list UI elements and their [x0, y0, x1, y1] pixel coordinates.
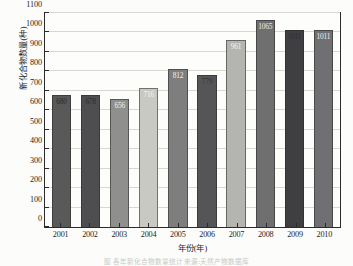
bar-value-label: 1065 [257, 22, 274, 31]
bar-slot: 716 [136, 13, 162, 227]
bar-slot: 1011 [310, 13, 336, 227]
bar-slot: 1065 [252, 13, 278, 227]
bar-slot: 779 [194, 13, 220, 227]
scanned-page: 新化合物数量(种) 010020030040050060070080090010… [0, 0, 353, 266]
bar: 1011 [285, 30, 304, 227]
bar-slot: 680 [48, 13, 74, 227]
bar-slot: 1011 [281, 13, 307, 227]
x-axis-tick-label: 2006 [194, 230, 221, 239]
bar: 1065 [256, 20, 275, 227]
bar-value-label: 1011 [315, 32, 332, 41]
x-axis-tickmark [296, 223, 297, 227]
y-axis-tick-label: 700 [30, 77, 42, 86]
x-axis-tick-label: 2009 [282, 230, 309, 239]
y-axis-tick-label: 400 [30, 136, 42, 145]
bar-slot: 961 [223, 13, 249, 227]
bar-value-label: 961 [227, 42, 244, 51]
bar: 678 [81, 95, 100, 227]
y-axis-tick-label: 800 [30, 58, 42, 67]
x-axis-tick-label: 2007 [223, 230, 250, 239]
bar-series: 680678656716812779961106510111011 [45, 13, 340, 227]
bar: 716 [139, 88, 158, 227]
x-axis-tick-label: 2001 [47, 230, 74, 239]
y-axis-tick-label: 0 [38, 214, 42, 223]
plot-area: 010020030040050060070080090010001100 680… [44, 12, 341, 228]
bar-value-label: 1011 [286, 32, 303, 41]
y-axis-tick-label: 600 [30, 97, 42, 106]
y-axis-tick-label: 500 [30, 116, 42, 125]
bar-value-label: 716 [140, 90, 157, 99]
bar-value-label: 656 [111, 101, 128, 110]
bar-slot: 656 [107, 13, 133, 227]
bar: 779 [197, 75, 216, 227]
figure-caption: 图 各年新化合物数量统计 来源:天然产物数据库 [0, 256, 353, 266]
bar: 961 [226, 40, 245, 227]
x-axis-tickmark [178, 223, 179, 227]
y-axis-tick-label: 1000 [26, 19, 42, 28]
bar-value-label: 779 [198, 77, 215, 86]
x-axis-tickmark [266, 223, 267, 227]
x-axis-tick-label: 2003 [106, 230, 133, 239]
x-axis-tickmark [148, 223, 149, 227]
x-axis-tick-label: 2010 [311, 230, 338, 239]
bar: 1011 [314, 30, 333, 227]
y-axis-tick-label: 200 [30, 175, 42, 184]
bar-slot: 678 [77, 13, 103, 227]
x-axis-tickmark [325, 223, 326, 227]
x-axis-tickmark [207, 223, 208, 227]
bar-value-label: 812 [169, 71, 186, 80]
bar-value-label: 680 [53, 97, 70, 106]
bar-slot: 812 [165, 13, 191, 227]
x-axis-title: 年份(年) [44, 241, 341, 253]
bar-chart-figure: 新化合物数量(种) 010020030040050060070080090010… [0, 0, 353, 266]
bar: 656 [110, 99, 129, 227]
y-axis-tick-label: 900 [30, 38, 42, 47]
x-axis-tick-label: 2004 [135, 230, 162, 239]
y-axis-title: 新化合物数量(种) [16, 0, 28, 118]
x-axis-tickmark [60, 223, 61, 227]
bar-value-label: 678 [82, 97, 99, 106]
x-axis-tickmark [89, 223, 90, 227]
x-axis-tick-label: 2005 [165, 230, 192, 239]
x-axis-tickmark [119, 223, 120, 227]
y-axis-tick-label: 1100 [26, 0, 42, 9]
bar: 680 [52, 95, 71, 227]
y-axis-tick-label: 300 [30, 155, 42, 164]
x-axis-tick-labels: 2001200220032004200520062007200820092010 [44, 230, 341, 239]
x-axis-tickmark [237, 223, 238, 227]
x-axis-tick-label: 2008 [252, 230, 279, 239]
y-axis-tick-label: 100 [30, 194, 42, 203]
bar: 812 [168, 69, 187, 227]
x-axis-tick-label: 2002 [77, 230, 104, 239]
